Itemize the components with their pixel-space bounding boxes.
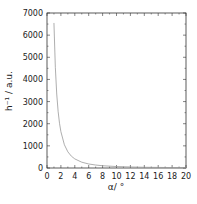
y-tick-label: 1000 (23, 142, 43, 151)
chart: 01000200030004000500060007000 0246810121… (0, 0, 197, 204)
y-tick-label: 7000 (23, 9, 43, 18)
x-tick-label: 16 (153, 172, 163, 181)
x-tick-label: 0 (44, 172, 49, 181)
x-axis-label: α/ ° (108, 182, 124, 192)
x-tick-label: 4 (72, 172, 77, 181)
y-tick-label: 6000 (23, 31, 43, 40)
x-tick-label: 14 (139, 172, 149, 181)
x-axis-ticks: 02468101214161820 (44, 13, 191, 181)
y-tick-label: 0 (38, 164, 43, 173)
y-tick-label: 3000 (23, 98, 43, 107)
x-tick-label: 10 (111, 172, 121, 181)
x-tick-label: 20 (181, 172, 191, 181)
y-tick-label: 5000 (23, 53, 43, 62)
x-tick-label: 2 (58, 172, 63, 181)
x-tick-label: 8 (100, 172, 105, 181)
x-tick-label: 12 (125, 172, 135, 181)
data-series-curve (54, 23, 186, 168)
y-tick-label: 2000 (23, 120, 43, 129)
y-tick-label: 4000 (23, 75, 43, 84)
plot-frame (47, 13, 186, 168)
y-axis-label: h⁻¹ / a.u. (4, 71, 14, 111)
x-tick-label: 18 (167, 172, 177, 181)
x-tick-label: 6 (86, 172, 91, 181)
